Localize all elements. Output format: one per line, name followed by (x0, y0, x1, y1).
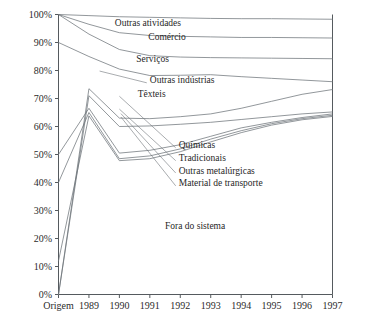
x-tick-label: 1996 (292, 300, 312, 311)
y-tick-label: 10% (34, 261, 52, 272)
y-tick-label: 50% (34, 149, 52, 160)
series-label-com-rcio: Comércio (148, 32, 186, 42)
series-label-outras-atividades: Outras atividades (115, 18, 182, 28)
series-label-fora-do-sistema: Fora do sistema (165, 221, 226, 231)
chart-container: 0%10%20%30%40%50%60%70%80%90%100% Origem… (0, 0, 370, 320)
y-tick-label: 0% (39, 289, 52, 300)
x-axis-labels: Origem1989199019911992199319941995199619… (43, 300, 342, 311)
leader-line-outras-ind-strias (100, 71, 147, 83)
y-axis-labels: 0%10%20%30%40%50%60%70%80%90%100% (29, 9, 52, 300)
series-label-tradicionais: Tradicionais (179, 153, 226, 163)
series-labels: Outras atividadesComércioServiçosOutras … (115, 18, 263, 231)
y-tick-label: 90% (34, 37, 52, 48)
series-label-qu-micas: Químicas (179, 140, 216, 150)
x-tick-label: 1997 (323, 300, 343, 311)
series-label-material-de-transporte: Material de transporte (179, 178, 263, 188)
series-label-servi-os: Serviços (136, 54, 169, 64)
series-label-outras-metal-rgicas: Outras metalúrgicas (179, 166, 255, 176)
x-tick-label: 1991 (140, 300, 160, 311)
y-axis-ticks (55, 15, 59, 295)
y-tick-label: 100% (29, 9, 52, 20)
x-tick-label: 1989 (79, 300, 99, 311)
x-tick-label: 1990 (109, 300, 129, 311)
y-tick-label: 20% (34, 233, 52, 244)
y-tick-label: 60% (34, 121, 52, 132)
leader-line-qu-micas (119, 96, 175, 148)
series-line-outras-atividades (59, 15, 333, 20)
y-tick-label: 40% (34, 177, 52, 188)
x-tick-label: 1992 (170, 300, 190, 311)
line-chart: 0%10%20%30%40%50%60%70%80%90%100% Origem… (0, 0, 370, 320)
series-line-qu-micas (59, 96, 333, 295)
x-axis-ticks (59, 295, 333, 299)
leader-line-material-de-transporte (121, 117, 176, 186)
x-tick-label: 1993 (201, 300, 221, 311)
x-tick-label: Origem (43, 300, 74, 311)
x-tick-label: 1994 (231, 300, 251, 311)
series-label-outras-ind-strias: Outras indústrias (150, 75, 215, 85)
y-tick-label: 80% (34, 65, 52, 76)
leader-line-tradicionais (119, 109, 175, 161)
x-tick-label: 1995 (262, 300, 282, 311)
y-tick-label: 30% (34, 205, 52, 216)
y-tick-label: 70% (34, 93, 52, 104)
series-label-t-xteis: Têxteis (138, 89, 166, 99)
